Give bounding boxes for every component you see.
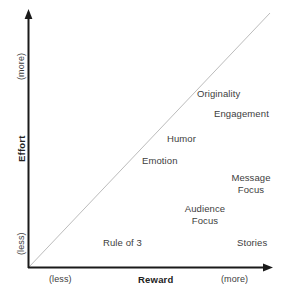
axes-and-reference-line xyxy=(0,0,284,295)
effort-reward-matrix: (more) Effort (less) (less) Reward (more… xyxy=(0,0,284,295)
plot-label-audience-focus-line1: Audience xyxy=(182,203,228,215)
plot-label-message-focus-line1: Message xyxy=(228,172,274,184)
plot-label-rule-of-3: Rule of 3 xyxy=(103,237,142,249)
plot-label-message-focus: Message Focus xyxy=(228,172,274,195)
diagonal-reference-line xyxy=(29,13,270,267)
x-axis-tick-less: (less) xyxy=(49,274,72,284)
plot-label-humor: Humor xyxy=(167,133,196,145)
plot-label-emotion: Emotion xyxy=(142,155,178,167)
plot-label-message-focus-line2: Focus xyxy=(228,184,274,196)
plot-label-originality: Originality xyxy=(197,88,240,100)
x-axis-tick-more: (more) xyxy=(221,274,248,284)
y-axis-tick-more: (more) xyxy=(16,53,26,80)
x-axis-arrowhead-icon xyxy=(263,264,273,272)
plot-label-audience-focus-line2: Focus xyxy=(182,215,228,227)
y-axis-arrowhead-icon xyxy=(25,9,33,19)
x-axis-title: Reward xyxy=(138,274,174,285)
y-axis-tick-less: (less) xyxy=(16,232,26,255)
plot-label-audience-focus: Audience Focus xyxy=(182,203,228,226)
plot-label-stories: Stories xyxy=(237,237,267,249)
plot-label-engagement: Engagement xyxy=(214,108,269,120)
y-axis-title: Effort xyxy=(16,135,27,162)
